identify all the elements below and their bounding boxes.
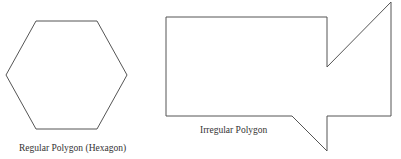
hexagon-caption: Regular Polygon (Hexagon) — [19, 143, 126, 153]
regular-hexagon-shape — [6, 21, 127, 129]
diagram-canvas — [0, 0, 401, 159]
irregular-polygon-caption: Irregular Polygon — [200, 125, 267, 135]
